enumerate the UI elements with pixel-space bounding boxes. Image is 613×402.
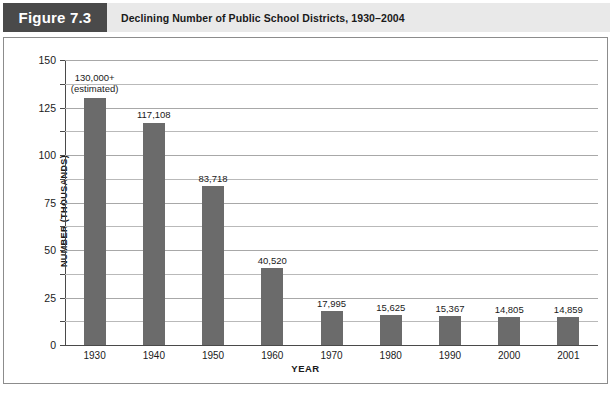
figure-title: Declining Number of Public School Distri… [121, 3, 405, 32]
y-axis-tick-mark [60, 345, 65, 346]
y-axis-tick-labels: 0255075100125150 [4, 38, 60, 385]
y-axis-tick-label: 0 [50, 339, 56, 351]
y-axis-tick-mark [60, 250, 65, 251]
bar-value-label: 117,108 [137, 109, 171, 120]
y-axis-tick-mark [60, 131, 65, 132]
bar [557, 317, 579, 345]
bar [498, 317, 520, 345]
bar-value-label: 14,805 [495, 304, 524, 315]
bar-value-label: 15,367 [435, 303, 464, 314]
y-axis-tick-mark [60, 108, 65, 109]
y-axis-tick-label: 75 [44, 197, 56, 209]
gridline [65, 60, 598, 61]
figure-number-tag: Figure 7.3 [3, 3, 107, 32]
bar-value-label: 130,000+(estimated) [71, 72, 119, 94]
y-axis-tick-label: 50 [44, 244, 56, 256]
y-axis-tick-mark [60, 155, 65, 156]
bar [143, 123, 165, 346]
bar-value-label: 15,625 [376, 302, 405, 313]
y-axis-tick-label: 100 [38, 149, 56, 161]
bar-value-label: 83,718 [199, 173, 228, 184]
y-axis-tick-mark [60, 274, 65, 275]
x-axis-tick-label: 1930 [83, 350, 105, 361]
bar [321, 311, 343, 345]
bar-value-label: 40,520 [258, 255, 287, 266]
y-axis-tick-mark [60, 203, 65, 204]
x-axis-title: YEAR [4, 363, 607, 374]
source-note-sliver [4, 396, 424, 399]
x-axis-tick-label: 2000 [498, 350, 520, 361]
x-axis-tick-label: 1950 [202, 350, 224, 361]
y-axis-tick-mark [60, 60, 65, 61]
y-axis-tick-mark [60, 298, 65, 299]
x-axis-tick-label: 1970 [320, 350, 342, 361]
gridline [65, 84, 598, 85]
bar [380, 315, 402, 345]
bar [84, 98, 106, 345]
bar [261, 268, 283, 345]
y-axis-tick-label: 25 [44, 292, 56, 304]
x-axis-tick-label: 1960 [261, 350, 283, 361]
plot-area: 130,000+(estimated)117,10883,71840,52017… [65, 60, 598, 345]
bar [439, 316, 461, 345]
x-axis-tick-label: 1940 [143, 350, 165, 361]
bar-value-label: 17,995 [317, 298, 346, 309]
axis-baseline [65, 345, 598, 346]
x-axis-tick-label: 2001 [557, 350, 579, 361]
y-axis-tick-label: 150 [38, 54, 56, 66]
x-axis-tick-label: 1980 [380, 350, 402, 361]
y-axis-tick-label: 125 [38, 102, 56, 114]
x-axis-tick-label: 1990 [439, 350, 461, 361]
bar-value-label: 14,859 [554, 304, 583, 315]
y-axis-tick-mark [60, 226, 65, 227]
chart-panel: NUMBER (THOUSANDS) 0255075100125150 130,… [3, 37, 608, 384]
bar [202, 186, 224, 345]
y-axis-tick-mark [60, 179, 65, 180]
figure-header-band: Figure 7.3 Declining Number of Public Sc… [3, 3, 610, 32]
y-axis-tick-mark [60, 84, 65, 85]
y-axis-tick-mark [60, 321, 65, 322]
figure-root: Figure 7.3 Declining Number of Public Sc… [0, 0, 613, 402]
